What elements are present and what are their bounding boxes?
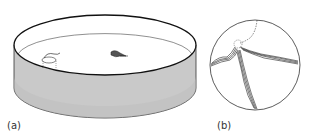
pool-top-view [210, 20, 300, 110]
figure-canvas [0, 0, 313, 138]
panel-label-a: (a) [7, 120, 21, 131]
swim-path-diagram [210, 20, 300, 110]
panel-label-b: (b) [217, 120, 231, 131]
pool-diagram [14, 15, 196, 118]
